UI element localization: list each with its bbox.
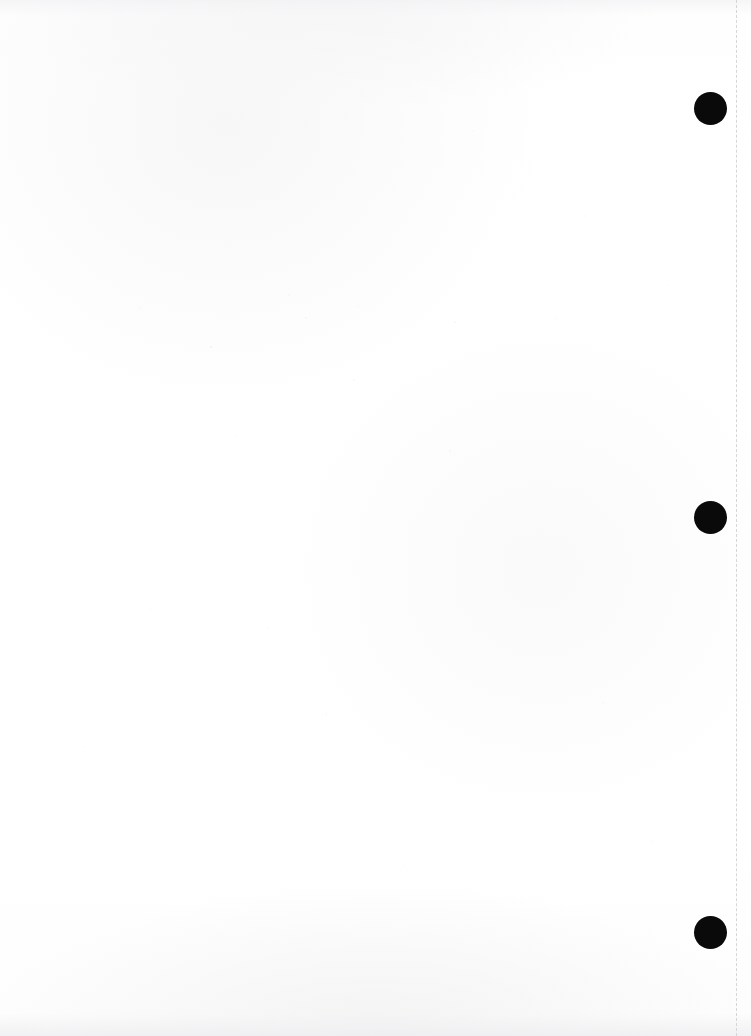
scanned-page (0, 0, 751, 1036)
registration-dot-top (694, 92, 727, 125)
perforation-dashed-line (736, 0, 737, 1036)
scan-edge-shading-top (0, 0, 751, 16)
scan-edge-shading-bottom (0, 1014, 751, 1036)
scan-noise-speckles (0, 0, 751, 1036)
registration-dot-middle (694, 501, 727, 534)
registration-dot-bottom (694, 916, 727, 949)
